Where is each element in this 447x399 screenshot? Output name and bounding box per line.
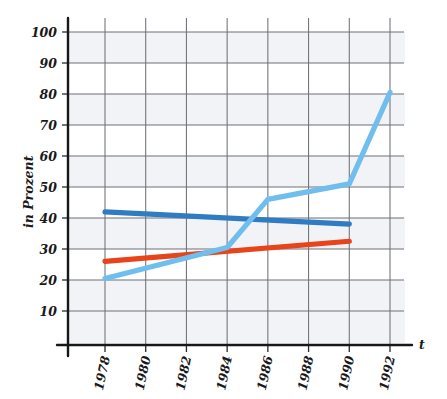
- x-axis-title: t: [419, 337, 425, 352]
- x-tick-label: 1978: [91, 354, 113, 391]
- plot-band: [69, 32, 405, 63]
- x-tick-label: 1980: [132, 354, 154, 391]
- plot-band: [69, 94, 405, 125]
- y-tick-label: 100: [31, 25, 57, 40]
- y-tick-label: 10: [40, 304, 58, 319]
- y-tick-label: 80: [40, 87, 58, 102]
- chart-canvas: 102030405060708090100 197819801982198419…: [0, 0, 447, 399]
- plot-band: [69, 280, 405, 311]
- y-tick-label: 60: [40, 149, 58, 164]
- x-tick-label: 1992: [376, 354, 398, 391]
- x-tick-label: 1988: [295, 354, 317, 391]
- y-tick-label: 90: [40, 56, 58, 71]
- x-axis-tick-labels: 19781980198219841986198819901992: [91, 354, 398, 391]
- x-tick-label: 1982: [172, 354, 194, 391]
- line-chart: 102030405060708090100 197819801982198419…: [0, 0, 447, 399]
- x-tick-label: 1990: [335, 354, 357, 391]
- x-tick-label: 1984: [213, 355, 235, 392]
- plot-band: [69, 311, 405, 343]
- y-tick-label: 20: [39, 273, 58, 288]
- y-tick-label: 70: [40, 118, 58, 133]
- y-tick-label: 50: [40, 180, 58, 195]
- y-tick-label: 30: [40, 242, 58, 257]
- y-axis-title: in Prozent: [21, 155, 36, 228]
- y-tick-label: 40: [40, 211, 58, 226]
- x-tick-label: 1986: [254, 354, 276, 391]
